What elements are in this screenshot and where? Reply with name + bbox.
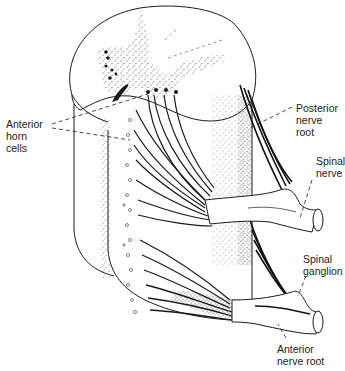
rootlet-cell-dots — [123, 119, 137, 314]
cord-right-dense-shading — [238, 95, 252, 265]
label-spinal-nerve: Spinal nerve — [316, 155, 345, 179]
label-posterior-nerve-root: Posterior nerve root — [296, 102, 338, 138]
spinal-nerve-lower — [232, 291, 323, 334]
grey-matter — [98, 8, 228, 98]
label-spinal-ganglion: Spinal ganglion — [303, 253, 343, 277]
cord-left-shading — [100, 118, 110, 278]
leader-anterior-horn-cells-2 — [52, 128, 130, 140]
label-anterior-nerve-root: Anterior nerve root — [277, 343, 324, 367]
diagram-canvas — [0, 0, 345, 371]
spinal-nerve-cut-end — [313, 209, 323, 231]
spinal-cord-diagram: Anterior horn cells Posterior nerve root… — [0, 0, 345, 371]
anterior-rootlets — [134, 95, 214, 226]
spinal-ganglion-cut-end — [313, 311, 323, 333]
label-anterior-horn-cells: Anterior horn cells — [6, 118, 43, 154]
